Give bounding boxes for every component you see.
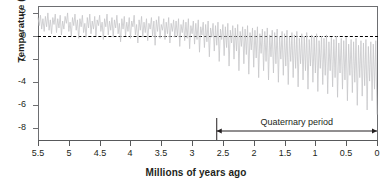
quaternary-period-label: Quaternary period xyxy=(261,117,334,127)
x-axis-title: Millions of years ago xyxy=(0,167,392,178)
chart-figure: Temperature (°C) 20-2-4-6-8 5.554.543.53… xyxy=(0,0,392,185)
quaternary-arrow xyxy=(0,0,392,185)
